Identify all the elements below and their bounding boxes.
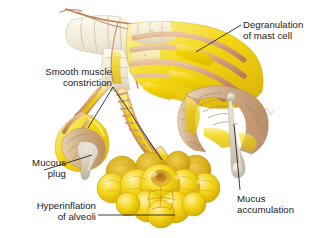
label-smooth-muscle-constriction: Smooth muscle constriction <box>16 66 112 89</box>
label-degranulation-of-mast-cell: Degranulation of mast cell <box>243 19 323 42</box>
bronchiole-middle <box>117 92 158 160</box>
alveolar-cluster <box>97 151 220 228</box>
label-mucous-plug: Mucous plug <box>8 157 66 180</box>
label-hyperinflation-of-alveoli: Hyperinflation of alveoli <box>12 200 96 223</box>
label-mucus-accumulation: Mucus accumulation <box>237 193 319 216</box>
asthma-illustration-figure: Degranulation of mast cell Smooth muscle… <box>0 0 324 238</box>
